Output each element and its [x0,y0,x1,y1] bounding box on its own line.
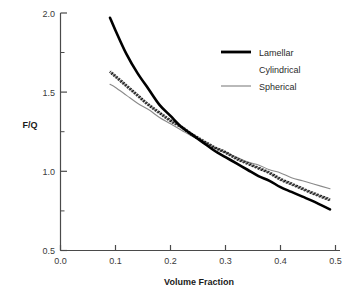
y-tick-label: 0.5 [42,246,55,256]
y-tick-label: 1.5 [42,88,55,98]
y-tick-label: 2.0 [42,9,55,19]
legend-label-spherical: Spherical [259,82,297,92]
x-tick-label: 0.2 [164,256,177,266]
chart-figure: 2.0 1.5 1.0 0.5 0.0 0.1 0.2 0.3 0.4 0.5 … [0,0,349,298]
legend-label-cylindrical: Cylindrical [259,65,301,75]
x-tick-label: 0.3 [219,256,232,266]
y-axis-title: F/Q [23,120,38,130]
x-tick-label: 0.5 [329,256,342,266]
legend-label-lamellar: Lamellar [259,48,294,58]
chart-svg: 2.0 1.5 1.0 0.5 0.0 0.1 0.2 0.3 0.4 0.5 … [0,0,349,298]
x-tick-label: 0.0 [54,256,67,266]
y-tick-label: 1.0 [42,167,55,177]
x-tick-label: 0.4 [274,256,287,266]
x-axis-title: Volume Fraction [164,277,234,287]
x-tick-label: 0.1 [109,256,122,266]
